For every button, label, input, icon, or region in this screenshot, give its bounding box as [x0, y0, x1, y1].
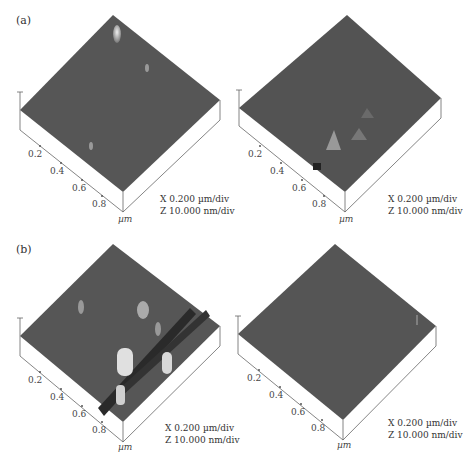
tick-label: 0.2 [28, 375, 42, 385]
tick-label: 0.4 [270, 166, 284, 176]
scale-x: X 0.200 µm/div [160, 193, 229, 205]
scale-z: Z 10.000 nm/div [388, 429, 463, 441]
unit-label: µm [339, 214, 353, 224]
afm-plot-a-right: 0.2 0.4 0.6 0.8 µm X 0.200 µm/div Z 10.0… [231, 0, 463, 229]
scale-z: Z 10.000 nm/div [160, 205, 235, 217]
tick-label: 0.8 [92, 425, 106, 435]
scale-x: X 0.200 µm/div [388, 193, 457, 205]
unit-label: µm [118, 214, 132, 224]
tick-label: 0.8 [92, 199, 106, 209]
afm-plot-a-left: 0.2 0.4 0.6 0.8 µm X 0.200 µm/div Z 10.0… [0, 0, 232, 229]
scale-x: X 0.200 µm/div [388, 417, 457, 429]
unit-label: µm [337, 440, 351, 450]
tick-label: 0.2 [28, 149, 42, 159]
tick-label: 0.4 [50, 392, 64, 402]
tick-label: 0.2 [247, 373, 261, 383]
tick-label: 0.6 [291, 407, 305, 417]
tick-label: 0.6 [72, 183, 86, 193]
tick-label: 0.2 [248, 149, 262, 159]
scale-z: Z 10.000 nm/div [165, 434, 240, 446]
tick-label: 0.4 [50, 166, 64, 176]
tick-label: 0.8 [311, 423, 325, 433]
unit-label: µm [118, 442, 132, 452]
afm-plot-b-right: 0.2 0.4 0.6 0.8 µm X 0.200 µm/div Z 10.0… [231, 230, 463, 459]
scale-z: Z 10.000 nm/div [388, 205, 463, 217]
scale-x: X 0.200 µm/div [165, 422, 234, 434]
tick-label: 0.6 [72, 409, 86, 419]
tick-label: 0.6 [292, 183, 306, 193]
afm-plot-b-left: 0.2 0.4 0.6 0.8 µm X 0.200 µm/div Z 10.0… [0, 230, 232, 459]
tick-label: 0.8 [312, 199, 326, 209]
tick-label: 0.4 [269, 390, 283, 400]
